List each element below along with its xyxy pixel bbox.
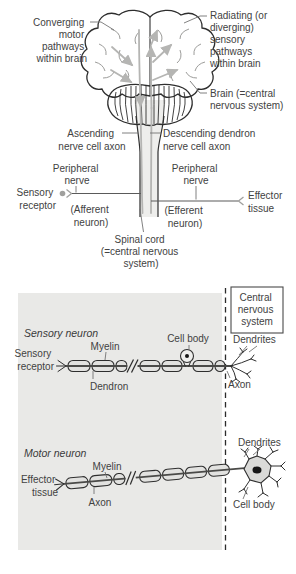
label-afferent-neuron: (Afferent neuron) (71, 204, 112, 228)
label-sensory-cell-body: Cell body (167, 333, 209, 344)
sensory-nucleus (185, 354, 189, 358)
nervous-system-figure: Converging motor pathways within brain R… (0, 0, 296, 574)
sensory-neuron-title: Sensory neuron (24, 327, 98, 339)
top-figure: Converging motor pathways within brain R… (17, 10, 286, 269)
sensory-dendrites-branches (231, 348, 256, 382)
label-spinal-cord: Spinal cord (=central nervous system) (101, 234, 181, 269)
motor-neuron-title: Motor neuron (24, 447, 87, 459)
effector-synapse-symbol (239, 197, 244, 205)
label-efferent-neuron: (Efferent neuron) (165, 205, 206, 229)
label-peripheral-nerve-right: Peripheral nerve (172, 163, 220, 186)
spinal-cord (134, 100, 166, 217)
label-converging-motor-pathways: Converging motor pathways within brain (33, 17, 87, 64)
label-effector-tissue-top: Effector tissue (248, 190, 285, 214)
brain-illustration (81, 10, 219, 97)
cns-box-label: Central nervous system (238, 292, 276, 327)
label-sensory-dendrites: Dendrites (233, 334, 276, 345)
label-sensory-receptor-top: Sensory receptor (17, 187, 57, 211)
label-brain-central-nervous-system: Brain (=central nervous system) (210, 88, 283, 111)
label-sensory-dendron: Dendron (90, 381, 128, 392)
sensory-axon-break (127, 359, 138, 374)
label-descending-dendron: Descending dendron nerve cell axon (163, 128, 258, 152)
label-peripheral-nerve-left: Peripheral nerve (53, 163, 101, 186)
label-motor-dendrites: Dendrites (238, 437, 281, 448)
efferent-nerve-line (151, 197, 244, 205)
label-motor-cell-body: Cell body (233, 499, 275, 510)
bottom-figure: Central nervous system Sensory neuron (15, 287, 285, 553)
sensory-receptor-symbol (60, 191, 66, 197)
label-motor-myelin: Myelin (93, 461, 122, 472)
label-radiating-sensory-pathways: Radiating (or diverging) sensory pathway… (209, 10, 270, 69)
motor-nucleus (253, 467, 262, 474)
afferent-nerve-line (60, 190, 141, 198)
label-sensory-myelin: Myelin (91, 341, 120, 352)
motor-axon-break (125, 470, 137, 485)
label-motor-axon: Axon (89, 497, 112, 508)
cns-box: Central nervous system (231, 287, 283, 333)
label-ascending-axon: Ascending nerve cell axon (58, 128, 125, 152)
label-sensory-axon: Axon (228, 379, 251, 390)
